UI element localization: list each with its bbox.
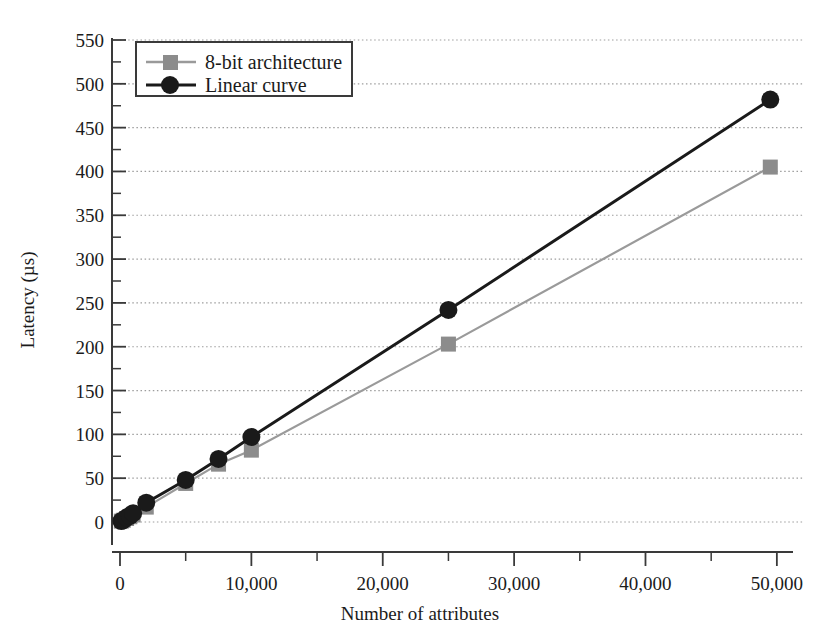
y-tick-label: 350: [76, 205, 105, 226]
x-tick-label: 50,000: [751, 573, 803, 594]
y-tick-label: 50: [85, 468, 104, 489]
data-point-circle: [177, 471, 195, 489]
circle-marker-icon: [161, 76, 179, 94]
y-tick-label: 300: [76, 249, 105, 270]
y-tick-label: 100: [76, 424, 105, 445]
y-tick-label: 550: [76, 30, 105, 51]
chart-legend: 8-bit architecture Linear curve: [136, 42, 352, 96]
chart-figure: 050100150200250300350400450500550 010,00…: [0, 0, 835, 642]
data-point-circle: [439, 301, 457, 319]
x-tick-label: 30,000: [488, 573, 540, 594]
x-tick-label: 40,000: [619, 573, 671, 594]
legend-label-0: 8-bit architecture: [205, 51, 342, 73]
data-point-square: [441, 337, 456, 352]
legend-entry-linear-curve: Linear curve: [146, 74, 307, 96]
y-tick-label: 0: [95, 512, 105, 533]
y-tick-label: 450: [76, 118, 105, 139]
x-tick-label: 0: [115, 573, 125, 594]
legend-label-1: Linear curve: [205, 74, 307, 96]
chart-background: [0, 0, 835, 642]
data-point-circle: [242, 428, 260, 446]
data-point-circle: [210, 450, 228, 468]
y-tick-label: 250: [76, 293, 105, 314]
square-marker-icon: [163, 55, 178, 70]
latency-vs-attributes-chart: 050100150200250300350400450500550 010,00…: [0, 0, 835, 642]
data-point-circle: [761, 91, 779, 109]
data-point-circle: [137, 494, 155, 512]
y-axis-title: Latency (µs): [17, 252, 39, 349]
x-tick-label: 20,000: [357, 573, 409, 594]
data-point-square: [763, 160, 778, 175]
y-tick-label: 500: [76, 74, 105, 95]
y-tick-label: 200: [76, 337, 105, 358]
x-tick-label: 10,000: [225, 573, 277, 594]
y-tick-label: 400: [76, 161, 105, 182]
y-tick-label: 150: [76, 381, 105, 402]
x-axis-title: Number of attributes: [341, 603, 499, 624]
